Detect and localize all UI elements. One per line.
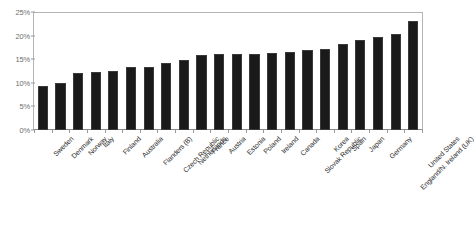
bar-slot <box>175 13 193 130</box>
bar <box>179 60 189 130</box>
bar <box>267 53 277 130</box>
x-axis-label: Spain <box>350 135 367 152</box>
bar <box>373 37 383 130</box>
bar-slot <box>140 13 158 130</box>
bar <box>55 83 65 130</box>
bar-slot <box>210 13 228 130</box>
bar <box>232 54 242 130</box>
y-tick-mark <box>31 12 35 13</box>
x-axis-label: Canada <box>299 135 321 157</box>
bar <box>144 67 154 130</box>
y-tick-mark <box>31 82 35 83</box>
bar-slot <box>334 13 352 130</box>
y-tick-label: 20% <box>16 31 30 40</box>
x-axis-label: Estonia <box>245 135 266 156</box>
y-axis: 25%20%15%10%5%0% <box>0 12 30 130</box>
y-tick-label: 15% <box>16 55 30 64</box>
bar <box>302 50 312 130</box>
bar <box>355 40 365 130</box>
bar-slot <box>122 13 140 130</box>
y-tick-mark <box>31 106 35 107</box>
bar-slot <box>299 13 317 130</box>
y-tick-label: 5% <box>20 102 30 111</box>
bar-slot <box>228 13 246 130</box>
bar <box>338 44 348 130</box>
bar-slot <box>263 13 281 130</box>
bar <box>285 52 295 130</box>
bar-slot <box>246 13 264 130</box>
bar <box>320 49 330 130</box>
bar <box>126 67 136 130</box>
y-tick-mark <box>31 59 35 60</box>
bar-slot <box>34 13 52 130</box>
y-tick-mark <box>31 130 35 131</box>
bar-slot <box>193 13 211 130</box>
bar <box>161 63 171 130</box>
x-axis-label: Austria <box>227 135 247 155</box>
bar <box>91 72 101 130</box>
x-axis-label: Ireland <box>280 135 300 155</box>
bar <box>196 55 206 130</box>
bar-slot <box>69 13 87 130</box>
bar-slot <box>87 13 105 130</box>
bar-slot <box>157 13 175 130</box>
x-tick-mark <box>422 130 423 133</box>
bar-slot <box>352 13 370 130</box>
y-tick-label: 0% <box>20 126 30 135</box>
bar-slot <box>404 13 422 130</box>
bar-slot <box>281 13 299 130</box>
y-tick-label: 25% <box>16 8 30 17</box>
bar <box>38 86 48 130</box>
x-axis-label: Australia <box>141 135 165 159</box>
bar-slot <box>105 13 123 130</box>
y-tick-label: 10% <box>16 78 30 87</box>
bar <box>108 71 118 130</box>
x-axis-label: Finland <box>122 135 143 156</box>
bar-slot <box>52 13 70 130</box>
bar-slot <box>387 13 405 130</box>
x-axis-label: Germany <box>388 135 413 160</box>
bar <box>391 34 401 130</box>
bar <box>73 73 83 130</box>
bar <box>408 21 418 131</box>
bars-container <box>34 13 422 130</box>
bar-slot <box>316 13 334 130</box>
x-axis-label: Japan <box>368 135 386 153</box>
bar <box>214 54 224 130</box>
y-tick-mark <box>31 35 35 36</box>
x-axis-labels: SwedenDenmarkNorwayItalyFinlandAustralia… <box>34 133 422 231</box>
bar-slot <box>369 13 387 130</box>
bar <box>249 54 259 130</box>
